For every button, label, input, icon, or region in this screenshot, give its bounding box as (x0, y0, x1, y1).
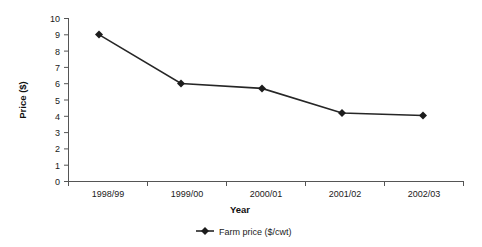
x-tick-label: 2000/01 (250, 189, 283, 199)
chart-canvas: 10 9 8 7 6 5 4 3 2 1 0 1998/99 1999/00 2… (0, 0, 482, 247)
legend-label: Farm price ($/cwt) (219, 227, 292, 237)
y-tick-label: 3 (55, 128, 60, 138)
y-tick-label: 9 (55, 30, 60, 40)
y-tick-label: 6 (55, 79, 60, 89)
x-axis-title: Year (230, 204, 250, 215)
y-axis-title: Price ($) (17, 81, 28, 119)
x-tick-label: 2001/02 (329, 189, 362, 199)
y-tick-label: 4 (55, 112, 60, 122)
y-tick-label: 8 (55, 47, 60, 57)
y-tick-label: 10 (50, 14, 60, 24)
y-tick-label: 5 (55, 96, 60, 106)
x-tick-label: 1999/00 (171, 189, 204, 199)
x-tick-label: 1998/99 (92, 189, 125, 199)
x-tick-label: 2002/03 (408, 189, 441, 199)
y-tick-label: 2 (55, 144, 60, 154)
y-tick-label: 7 (55, 63, 60, 73)
y-tick-label: 0 (55, 177, 60, 187)
y-tick-label: 1 (55, 161, 60, 171)
line-chart: 10 9 8 7 6 5 4 3 2 1 0 1998/99 1999/00 2… (0, 0, 482, 247)
